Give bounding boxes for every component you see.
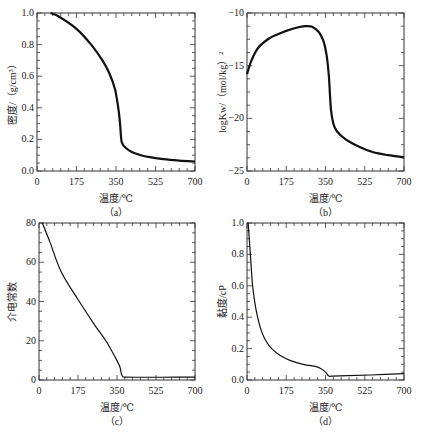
axis-ticks (247, 223, 404, 380)
y-tick-label: 60 (8, 257, 36, 267)
x-tick-label: 525 (350, 177, 380, 187)
x-tick-label: 700 (180, 386, 210, 396)
y-tick-label: 20 (8, 336, 36, 346)
y-axis-label: logKw/（mol/kg）² (214, 51, 229, 132)
x-tick-label: 525 (350, 386, 380, 396)
plot-frame (39, 223, 195, 380)
y-tick-label: −25 (216, 166, 244, 176)
x-axis-label: 温度/℃ (56, 190, 176, 205)
chart-panel-a: 0.00.20.40.60.81.00175350525700温度/℃（a）密度… (0, 0, 210, 215)
x-tick-label: 525 (141, 177, 171, 187)
y-tick-label: −10 (216, 8, 244, 18)
y-tick-label: 0.8 (6, 40, 34, 50)
y-tick-label: 0.2 (216, 344, 244, 354)
plot-frame (247, 223, 404, 380)
y-tick-label: 0 (8, 375, 36, 385)
data-line (247, 26, 404, 157)
y-tick-label: 0.0 (6, 166, 34, 176)
x-tick-label: 0 (232, 177, 262, 187)
y-tick-label: 80 (8, 218, 36, 228)
y-tick-label: 0.8 (216, 249, 244, 259)
y-axis-label: 介电常数 (4, 282, 19, 322)
x-tick-label: 350 (101, 177, 131, 187)
x-tick-label: 0 (22, 177, 52, 187)
x-tick-label: 700 (180, 177, 210, 187)
x-tick-label: 700 (389, 177, 419, 187)
y-tick-label: 0.2 (6, 134, 34, 144)
x-tick-label: 175 (62, 177, 92, 187)
x-tick-label: 0 (232, 386, 262, 396)
panel-caption: （c） (87, 413, 147, 428)
axis-ticks (39, 223, 195, 380)
chart-panel-b: −25−20−15−100175350525700温度/℃（b）logKw/（m… (210, 0, 421, 215)
data-line (248, 223, 404, 376)
x-tick-label: 700 (389, 386, 419, 396)
panel-caption: （d） (296, 413, 356, 428)
x-tick-label: 175 (271, 386, 301, 396)
data-line (51, 13, 195, 162)
x-tick-label: 0 (24, 386, 54, 396)
x-tick-label: 350 (311, 177, 341, 187)
chart-panel-c: 0204060800175350525700温度/℃（c）介电常数 (0, 215, 210, 434)
y-axis-label: 黏度/cP (214, 285, 229, 318)
x-axis-label: 温度/℃ (266, 399, 386, 414)
y-axis-label: 密度/（g/cm³） (4, 59, 19, 125)
chart-panel-d: 0.00.20.40.60.81.00175350525700温度/℃（d）黏度… (210, 215, 421, 434)
x-tick-label: 525 (141, 386, 171, 396)
x-tick-label: 350 (311, 386, 341, 396)
y-tick-label: 1.0 (216, 218, 244, 228)
y-tick-label: 0.0 (216, 375, 244, 385)
x-tick-label: 175 (63, 386, 93, 396)
y-tick-label: 1.0 (6, 8, 34, 18)
x-tick-label: 175 (271, 177, 301, 187)
x-tick-label: 350 (102, 386, 132, 396)
x-axis-label: 温度/℃ (266, 190, 386, 205)
data-line (42, 223, 195, 377)
x-axis-label: 温度/℃ (57, 399, 177, 414)
